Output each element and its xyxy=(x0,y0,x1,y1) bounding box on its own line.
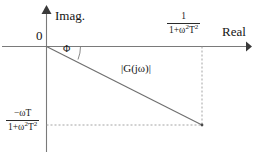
imag-intercept-fraction: −ωT 1+ω2T2 xyxy=(6,108,39,132)
imag-axis-label: Imag. xyxy=(55,9,85,22)
real-intercept-fraction: 1 1+ω2T2 xyxy=(167,11,200,35)
den-t-exponent: 2 xyxy=(34,119,38,127)
den-lead-text: 1+ xyxy=(8,122,18,132)
real-axis-arrowhead xyxy=(246,42,252,52)
num-t-text: T xyxy=(26,108,32,118)
den-lead-text: 1+ xyxy=(169,25,179,35)
phasor-diagram-svg xyxy=(0,0,259,156)
magnitude-vector-line xyxy=(47,47,203,126)
gjw-point-marker xyxy=(201,124,204,127)
imag-intercept-numerator: −ωT xyxy=(6,108,39,120)
real-intercept-denominator: 1+ω2T2 xyxy=(167,24,200,36)
den-t-exponent: 2 xyxy=(195,22,199,30)
imag-axis-arrowhead xyxy=(42,5,52,14)
real-axis xyxy=(2,42,252,52)
imag-intercept-denominator: 1+ω2T2 xyxy=(6,121,39,133)
origin-label: 0 xyxy=(36,29,43,42)
real-intercept-numerator: 1 xyxy=(167,11,200,23)
phase-angle-arc xyxy=(78,47,81,60)
real-axis-label: Real xyxy=(222,25,246,38)
imag-axis xyxy=(42,5,52,152)
phase-angle-label: Φ xyxy=(63,44,70,54)
magnitude-label: |G(jω)| xyxy=(121,63,151,74)
figure-canvas: Imag. Real 0 Φ |G(jω)| 1 1+ω2T2 −ωT 1+ω2… xyxy=(0,0,259,156)
